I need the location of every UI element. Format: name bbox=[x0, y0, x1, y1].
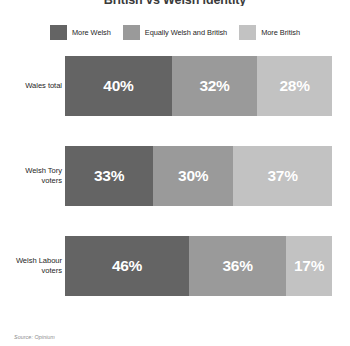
bar-segment-equally-welsh-and-british: 32% bbox=[172, 56, 257, 116]
chart-rows: Wales total 40% 32% 28% Welsh Tory voter… bbox=[0, 56, 350, 296]
stacked-bar: 40% 32% 28% bbox=[65, 56, 332, 116]
segment-value: 40% bbox=[103, 77, 133, 95]
segment-value: 46% bbox=[112, 257, 142, 275]
segment-value: 30% bbox=[178, 167, 208, 185]
row-label: Welsh Labour voters bbox=[4, 256, 64, 276]
row-label: Welsh Tory voters bbox=[4, 166, 64, 186]
legend-item-more-british: More British bbox=[239, 25, 300, 40]
segment-value: 28% bbox=[280, 77, 310, 95]
bar-segment-equally-welsh-and-british: 30% bbox=[153, 146, 233, 206]
legend-swatch-icon bbox=[50, 25, 67, 40]
chart-legend: More Welsh Equally Welsh and British Mor… bbox=[0, 25, 350, 40]
legend-label: More Welsh bbox=[72, 28, 111, 37]
stacked-bar: 33% 30% 37% bbox=[65, 146, 332, 206]
bar-row: Welsh Labour voters 46% 36% 17% bbox=[0, 236, 350, 296]
segment-value: 37% bbox=[268, 167, 298, 185]
legend-item-equally-welsh-and-british: Equally Welsh and British bbox=[123, 25, 227, 40]
bar-segment-more-welsh: 33% bbox=[65, 146, 153, 206]
bar-row: Wales total 40% 32% 28% bbox=[0, 56, 350, 116]
segment-value: 17% bbox=[294, 257, 324, 275]
bar-segment-equally-welsh-and-british: 36% bbox=[189, 236, 286, 296]
legend-label: More British bbox=[261, 28, 300, 37]
segment-value: 32% bbox=[199, 77, 229, 95]
stacked-bar: 46% 36% 17% bbox=[65, 236, 332, 296]
bar-segment-more-british: 37% bbox=[233, 146, 332, 206]
legend-item-more-welsh: More Welsh bbox=[50, 25, 111, 40]
bar-segment-more-british: 17% bbox=[286, 236, 332, 296]
chart-title: British vs Welsh identity bbox=[0, 0, 350, 6]
segment-value: 36% bbox=[223, 257, 253, 275]
chart-container: British vs Welsh identity More Welsh Equ… bbox=[0, 0, 350, 346]
row-label: Wales total bbox=[4, 81, 64, 91]
bar-segment-more-welsh: 46% bbox=[65, 236, 189, 296]
bar-segment-more-british: 28% bbox=[257, 56, 332, 116]
bar-row: Welsh Tory voters 33% 30% 37% bbox=[0, 146, 350, 206]
bar-segment-more-welsh: 40% bbox=[65, 56, 172, 116]
legend-swatch-icon bbox=[239, 25, 256, 40]
legend-swatch-icon bbox=[123, 25, 140, 40]
legend-label: Equally Welsh and British bbox=[145, 28, 227, 37]
source-caption: Source: Opinium bbox=[14, 334, 55, 340]
segment-value: 33% bbox=[94, 167, 124, 185]
